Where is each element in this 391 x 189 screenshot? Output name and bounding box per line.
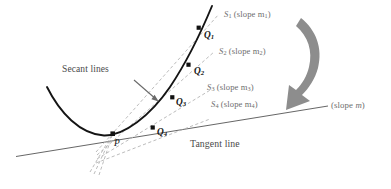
- secant-lines-group: [90, 14, 219, 175]
- point-label-q1-name: Q: [204, 30, 211, 40]
- secant-label-s3-slope-close: ): [251, 82, 254, 92]
- secant-lines-arrow: [134, 80, 159, 102]
- tangent-slope-suffix: ): [362, 100, 365, 110]
- point-label-q2: Q2: [194, 67, 204, 77]
- secant-label-s2-slope-text: (slope m: [229, 46, 260, 56]
- point-label-q2-name: Q: [194, 66, 201, 76]
- secant-line-extension-a: [90, 133, 113, 172]
- secant-label-s3: S3 (slope m3): [207, 83, 254, 92]
- secant-lines-label: Secant lines: [62, 65, 109, 75]
- point-marker-q1: [197, 26, 201, 30]
- tangent-secant-figure: Secant lines S1 (slope m1) S2 (slope m2)…: [0, 0, 391, 189]
- tangent-line-label: Tangent line: [190, 139, 240, 149]
- point-marker-q4: [151, 125, 155, 129]
- secant-line-extension-b: [94, 133, 113, 174]
- point-label-q3: Q3: [176, 98, 186, 108]
- point-label-q3-sub: 3: [183, 100, 186, 107]
- figure-canvas: [0, 0, 391, 189]
- point-markers-group: [110, 26, 200, 136]
- tangent-slope-prefix: (slope: [331, 100, 355, 110]
- point-marker-q3: [170, 95, 174, 99]
- point-marker-p: [110, 131, 115, 136]
- secant-label-s3-slope-text: (slope m: [217, 82, 248, 92]
- point-label-q2-sub: 2: [201, 69, 204, 76]
- point-label-q3-name: Q: [176, 97, 183, 107]
- secant-label-s2: S2 (slope m2): [219, 47, 266, 56]
- tangent-line: [16, 106, 328, 157]
- point-label-q4-sub: 4: [164, 130, 167, 137]
- point-label-q1-sub: 1: [211, 33, 214, 40]
- secant-label-s1: S1 (slope m1): [224, 10, 271, 19]
- secant-label-s4-slope-close: ): [255, 99, 258, 109]
- secant-label-s2-slope-close: ): [263, 46, 266, 56]
- point-label-q4-name: Q: [157, 127, 164, 137]
- secant-label-s1-slope-close: ): [268, 9, 271, 19]
- secant-label-s4-slope-text: (slope m: [221, 99, 252, 109]
- secant-label-s4: S4 (slope m4): [211, 100, 258, 109]
- point-label-q4: Q4: [157, 128, 167, 138]
- secant-label-s1-slope-text: (slope m: [234, 9, 265, 19]
- limit-direction-arrow: [286, 18, 320, 110]
- point-marker-q2: [186, 63, 190, 67]
- secant-line-extension-c: [99, 133, 113, 175]
- point-label-q1: Q1: [204, 31, 214, 41]
- tangent-slope-label: (slope m): [331, 101, 365, 110]
- point-label-p: P: [114, 139, 120, 148]
